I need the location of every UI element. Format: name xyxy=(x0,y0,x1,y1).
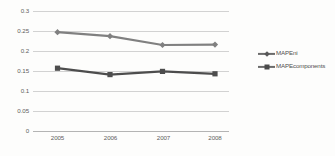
series-line xyxy=(58,32,216,45)
legend: MAPEni MAPEcomponents xyxy=(258,48,335,74)
data-point[interactable] xyxy=(55,66,60,71)
y-tick-label-0.15: 0.15 xyxy=(17,68,29,74)
x-tick-label-2007: 2007 xyxy=(157,135,170,141)
y-tick-label-0.05: 0.05 xyxy=(17,108,29,114)
legend-label-mapeni: MAPEni xyxy=(276,50,297,56)
data-point[interactable] xyxy=(212,71,217,76)
y-tick-label-0.1: 0.1 xyxy=(21,88,29,94)
y-tick-label-0.25: 0.25 xyxy=(17,28,29,34)
x-tick-label-2006: 2006 xyxy=(104,135,117,141)
legend-marker-square-icon xyxy=(258,62,275,71)
legend-item-mapecomponents[interactable]: MAPEcomponents xyxy=(258,61,335,72)
legend-label-mapecomponents: MAPEcomponents xyxy=(276,63,325,69)
data-point[interactable] xyxy=(107,33,113,39)
data-point[interactable] xyxy=(107,72,112,77)
series-mapecomponents xyxy=(55,66,218,78)
data-point[interactable] xyxy=(160,69,165,74)
x-tick-label-2005: 2005 xyxy=(51,135,64,141)
line-chart: 0.35 0.3 0.25 0.2 0.15 0.1 0.05 0 2005 2… xyxy=(0,0,335,156)
y-tick-label-0.3: 0.3 xyxy=(21,8,29,14)
data-point[interactable] xyxy=(54,29,60,35)
series-layer xyxy=(33,0,229,131)
data-point[interactable] xyxy=(212,41,218,47)
y-tick-label-0: 0 xyxy=(26,128,29,134)
series-line xyxy=(58,68,216,74)
x-axis-line xyxy=(33,131,229,132)
series-mapeni xyxy=(54,29,218,48)
plot-area: 0.35 0.3 0.25 0.2 0.15 0.1 0.05 0 2005 2… xyxy=(33,0,229,131)
x-tick-label-2008: 2008 xyxy=(208,135,221,141)
legend-marker-diamond-icon xyxy=(258,49,275,58)
legend-item-mapeni[interactable]: MAPEni xyxy=(258,48,335,59)
y-tick-label-0.2: 0.2 xyxy=(21,48,29,54)
data-point[interactable] xyxy=(159,42,165,48)
